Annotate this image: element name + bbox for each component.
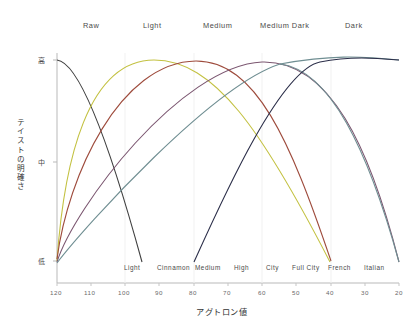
roast-level-medium-dark: Medium Dark	[260, 21, 309, 30]
x-tick-label-110: 110	[84, 289, 95, 296]
curve-medium-taste	[57, 62, 399, 262]
section-dividers	[125, 53, 331, 283]
x-axis-title: アグトロン値	[196, 305, 248, 317]
roast-stage-italian: Italian	[364, 264, 385, 271]
roast-level-light: Light	[143, 21, 162, 30]
x-tick-label-80: 80	[189, 289, 197, 296]
roast-level-dark: Dark	[345, 21, 363, 30]
roast-stage-cinnamon: Cinnamon	[157, 264, 190, 271]
roast-stage-medium: Medium	[195, 264, 221, 271]
x-tick-label-70: 70	[223, 289, 231, 296]
curve-dark-taste-descend	[280, 64, 399, 262]
curve-raw-taste	[57, 60, 142, 262]
coffee-roast-taste-chart: Raw Light Medium Medium Dark Dark 高 中 低 …	[0, 0, 416, 333]
curve-dark-taste	[57, 57, 399, 263]
roast-stage-full-city: Full City	[292, 264, 320, 271]
roast-stage-high: High	[234, 264, 249, 271]
y-tick-label-mid: 中	[38, 157, 46, 167]
x-tick-label-120: 120	[50, 289, 62, 296]
x-tick-label-100: 100	[118, 289, 130, 296]
roast-stage-city: City	[266, 264, 279, 271]
roast-level-medium: Medium	[203, 21, 232, 30]
x-tick-label-40: 40	[326, 289, 334, 296]
chart-plot-area	[0, 0, 416, 333]
y-tick-label-high: 高	[38, 55, 46, 65]
x-tick-label-60: 60	[258, 289, 266, 296]
roast-stage-light: Light	[124, 264, 140, 271]
roast-level-raw: Raw	[83, 21, 99, 30]
x-tick-label-30: 30	[361, 289, 369, 296]
curve-body-taste	[194, 58, 399, 262]
x-tick-label-50: 50	[292, 289, 300, 296]
x-tick-label-20: 20	[395, 289, 403, 296]
x-tick-label-90: 90	[155, 289, 163, 296]
roast-stage-french: French	[328, 264, 351, 271]
y-tick-label-low: 低	[38, 256, 46, 266]
y-axis-title: テイストの明確さ	[14, 118, 25, 192]
